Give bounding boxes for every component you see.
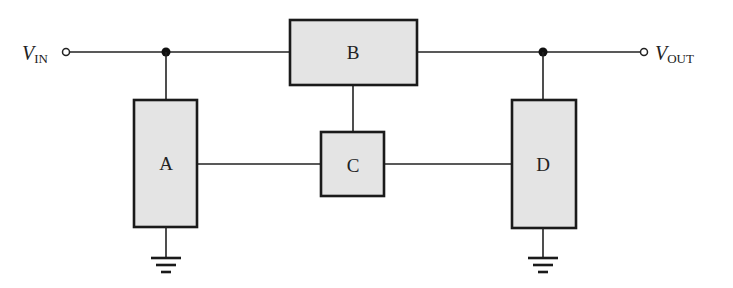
ground-d-icon — [528, 228, 558, 272]
block-a: A — [134, 100, 197, 227]
ground-a-icon — [151, 227, 181, 272]
vin-terminal — [63, 49, 70, 56]
block-c: C — [321, 132, 384, 196]
vout-terminal — [641, 49, 648, 56]
block-b: B — [290, 20, 417, 85]
svg-text:D: D — [536, 154, 550, 175]
vout-label: VOUT — [655, 42, 694, 66]
vin-label: VIN — [22, 42, 49, 66]
block-d: D — [512, 100, 576, 228]
svg-text:A: A — [159, 153, 173, 174]
svg-text:C: C — [347, 155, 360, 176]
block-diagram: VIN VOUT A B C D — [0, 0, 733, 288]
svg-text:B: B — [347, 42, 360, 63]
